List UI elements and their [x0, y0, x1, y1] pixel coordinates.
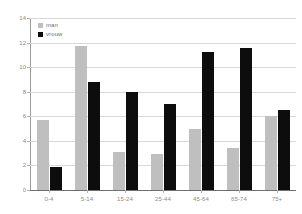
bar-vrouw — [202, 52, 214, 190]
x-tick-label: 0-4 — [30, 196, 68, 202]
bar-man — [227, 148, 239, 190]
x-tick-mark — [49, 190, 50, 193]
bar-vrouw — [278, 110, 290, 190]
x-tick-mark — [201, 190, 202, 193]
x-tick-label: 15-24 — [106, 196, 144, 202]
bar-group — [106, 18, 144, 190]
bar-man — [189, 129, 201, 190]
bar-man — [113, 152, 125, 190]
bar-group — [258, 18, 296, 190]
x-axis-labels: 0-45-1415-2425-4445-6465-7475+ — [30, 196, 296, 202]
x-tick-mark — [125, 190, 126, 193]
y-tick-label: 2 — [0, 162, 26, 168]
bar-chart: 14121086420 0-45-1415-2425-4445-6465-747… — [0, 0, 302, 214]
y-tick-label: 8 — [0, 89, 26, 95]
legend-label: man — [46, 22, 58, 28]
y-tick-label: 10 — [0, 64, 26, 70]
x-tick-label: 25-44 — [144, 196, 182, 202]
chart-legend: manvrouw — [38, 22, 63, 37]
legend-item-vrouw[interactable]: vrouw — [38, 31, 63, 37]
legend-swatch-icon — [38, 32, 43, 37]
bar-group — [68, 18, 106, 190]
bar-vrouw — [164, 104, 176, 190]
bar-group — [220, 18, 258, 190]
y-tick-label: 0 — [0, 187, 26, 193]
y-tick-label: 6 — [0, 113, 26, 119]
bar-man — [37, 120, 49, 190]
bar-vrouw — [126, 92, 138, 190]
bar-group — [182, 18, 220, 190]
y-tick-label: 4 — [0, 138, 26, 144]
bar-man — [265, 116, 277, 190]
bar-man — [75, 46, 87, 190]
y-tick-label: 12 — [0, 40, 26, 46]
bar-man — [151, 154, 163, 190]
x-tick-mark — [239, 190, 240, 193]
bar-group — [144, 18, 182, 190]
y-axis: 14121086420 — [0, 18, 26, 190]
bar-vrouw — [240, 48, 252, 191]
x-tick-mark — [277, 190, 278, 193]
bar-groups — [30, 18, 296, 190]
x-tick-label: 65-74 — [220, 196, 258, 202]
bar-vrouw — [50, 167, 62, 190]
legend-item-man[interactable]: man — [38, 22, 63, 28]
x-tick-label: 75+ — [258, 196, 296, 202]
x-tick-label: 5-14 — [68, 196, 106, 202]
x-tick-mark — [163, 190, 164, 193]
x-tick-label: 45-64 — [182, 196, 220, 202]
bar-group — [30, 18, 68, 190]
y-tick-label: 14 — [0, 15, 26, 21]
legend-swatch-icon — [38, 23, 43, 28]
bar-vrouw — [88, 82, 100, 190]
x-tick-mark — [87, 190, 88, 193]
legend-label: vrouw — [46, 31, 63, 37]
